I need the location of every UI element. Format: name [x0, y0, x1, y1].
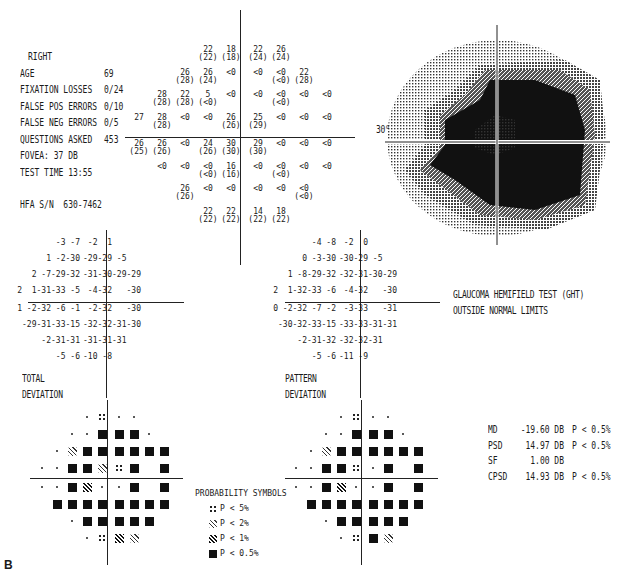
threshold-cell: 24(26): [196, 140, 220, 156]
pd-prob-s05-icon: [384, 430, 393, 439]
threshold-cell: 26(28): [173, 69, 197, 85]
td-prob-s05-icon: [98, 517, 107, 526]
td-prob-s05-icon: [145, 517, 154, 526]
pd-prob-s05-icon: [352, 430, 361, 439]
td-prob-s05-icon: [98, 447, 107, 456]
pattern-deviation-value: -5: [361, 254, 383, 264]
pd-prob-s05-icon: [352, 447, 361, 456]
pd-prob-s05-icon: [369, 447, 378, 456]
threshold-cell: 25(29): [246, 114, 270, 130]
td-prob-dot-icon: [86, 433, 88, 435]
pd-prob-s05-icon: [322, 500, 331, 509]
pd-prob-s2-icon: [322, 447, 331, 456]
td-prob-s05-icon: [83, 464, 92, 473]
ght-line1: GLAUCOMA HEMIFIELD TEST (GHT): [453, 289, 584, 302]
td-prob-s05-icon: [160, 447, 169, 456]
p2-symbol-icon: [209, 520, 217, 528]
pd-prob-s05-icon: [369, 517, 378, 526]
td-prob-s05-icon: [145, 447, 154, 456]
total-deviation-value: -31: [105, 336, 127, 346]
patient-info: RIGHT AGE69 FIXATION LOSSES0/24 FALSE PO…: [20, 52, 123, 217]
p5-symbol-icon: [209, 505, 217, 513]
threshold-cell: <0: [246, 69, 270, 77]
pd-prob-s5-icon: [352, 534, 361, 543]
pd-prob-s05-icon: [322, 464, 331, 473]
pd-prob-s05-icon: [352, 500, 361, 509]
threshold-cell: <0: [246, 91, 270, 99]
pd-prob-s05-icon: [369, 500, 378, 509]
pd-prob-s05-icon: [384, 500, 393, 509]
td-prob-dot-icon: [41, 467, 43, 469]
td-prob-dot-icon: [101, 486, 103, 488]
threshold-cell: 27: [127, 114, 151, 122]
td-prob-dot-icon: [41, 486, 43, 488]
td-prob-s05-icon: [145, 500, 154, 509]
td-prob-s2-icon: [68, 447, 77, 456]
td-prob-s05-icon: [130, 483, 139, 492]
total-deviation-value: -29: [119, 270, 141, 280]
threshold-cell: 26(26): [150, 140, 174, 156]
pd-prob-s1-icon: [337, 483, 346, 492]
pattern-deviation-value: -33: [346, 304, 368, 314]
pd-prob-s05-icon: [369, 534, 378, 543]
threshold-cell: <0(<0): [269, 163, 293, 179]
td-prob-dot-icon: [118, 416, 120, 418]
threshold-cell: 22(22): [196, 208, 220, 224]
pd-prob-s05-icon: [384, 447, 393, 456]
threshold-cell: 14(22): [246, 208, 270, 224]
pd-prob-dot-icon: [340, 537, 342, 539]
pd-prob-dot-icon: [310, 467, 312, 469]
threshold-cell: <0: [292, 114, 316, 122]
pd-prob-s05-icon: [337, 464, 346, 473]
td-prob-s05-icon: [115, 500, 124, 509]
pd-prob-s05-icon: [307, 500, 316, 509]
total-deviation-value: -30: [119, 304, 141, 314]
pdp-axis-horizontal: [285, 478, 438, 479]
pd-prob-s05-icon: [414, 483, 423, 492]
threshold-cell: 22(22): [196, 46, 220, 62]
td-prob-s05-icon: [68, 483, 77, 492]
threshold-cell: <0: [173, 114, 197, 122]
td-title-2: DEVIATION: [22, 389, 63, 402]
td-prob-dot-icon: [133, 416, 135, 418]
threshold-cell: 22(24): [246, 46, 270, 62]
td-prob-s05-icon: [160, 500, 169, 509]
td-prob-s05-icon: [115, 517, 124, 526]
pattern-deviation-value: 0: [346, 238, 368, 248]
td-prob-s05-icon: [160, 464, 169, 473]
pd-prob-s05-icon: [322, 483, 331, 492]
threshold-cell: <0: [219, 185, 243, 193]
figure-label: B: [4, 558, 13, 572]
legend-title: PROBABILITY SYMBOLS: [195, 489, 287, 504]
threshold-cell: 18(18): [219, 46, 243, 62]
pd-prob-dot-icon: [295, 486, 297, 488]
td-prob-s2-icon: [130, 534, 139, 543]
td-title-1: TOTAL: [22, 373, 45, 386]
threshold-cell: <0: [269, 140, 293, 148]
threshold-cell: <0: [246, 185, 270, 193]
td-prob-s05-icon: [98, 430, 107, 439]
td-prob-s05-icon: [115, 447, 124, 456]
threshold-cell: <0: [219, 69, 243, 77]
global-indices: MD-19.60 DBP < 0.5% PSD14.97 DBP < 0.5% …: [488, 425, 611, 487]
pd-title-2: DEVIATION: [285, 389, 326, 402]
td-prob-s05-icon: [68, 464, 77, 473]
threshold-cell: 22(22): [219, 208, 243, 224]
pd-prob-dot-icon: [355, 486, 357, 488]
td-prob-s1-icon: [83, 483, 92, 492]
tdp-axis-vertical: [107, 400, 108, 565]
pd-prob-s05-icon: [414, 464, 423, 473]
threshold-cell: 22(28): [173, 91, 197, 107]
threshold-cell: <0: [246, 163, 270, 171]
pd-prob-dot-icon: [310, 450, 312, 452]
td-prob-dot-icon: [71, 520, 73, 522]
legend-item-5: P < 5%: [195, 504, 287, 519]
threshold-cell: 18(22): [269, 208, 293, 224]
td-prob-s05-icon: [68, 500, 77, 509]
pd-prob-dot-icon: [372, 467, 374, 469]
p1-symbol-icon: [209, 535, 217, 543]
threshold-cell: 26(24): [269, 46, 293, 62]
td-prob-s05-icon: [83, 500, 92, 509]
threshold-cell: <0: [173, 163, 197, 171]
td-prob-dot-icon: [86, 416, 88, 418]
